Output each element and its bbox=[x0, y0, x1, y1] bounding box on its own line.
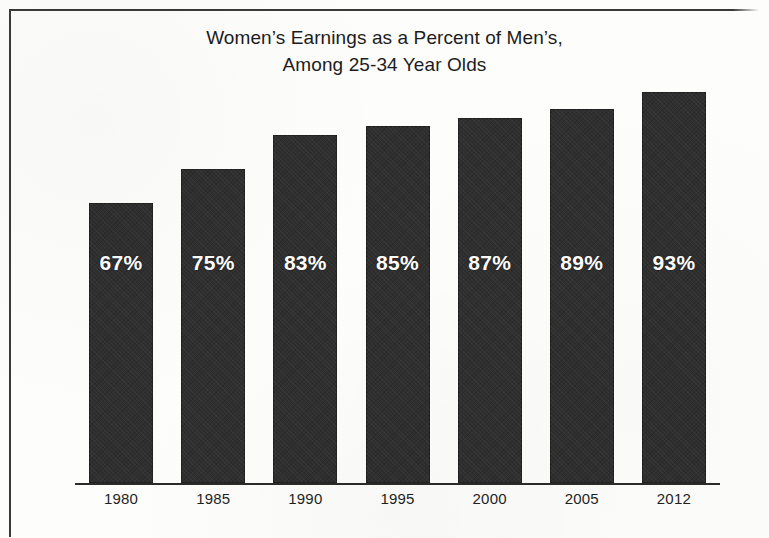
bar-rect-1980 bbox=[89, 203, 153, 483]
chart-title: Women’s Earnings as a Percent of Men’s, … bbox=[0, 24, 769, 78]
chart-title-line-1: Women’s Earnings as a Percent of Men’s, bbox=[0, 24, 769, 51]
bar-rect-1995 bbox=[366, 126, 430, 483]
bar-1980: 67% bbox=[89, 203, 153, 483]
bar-1990: 83% bbox=[273, 135, 337, 483]
bar-2005: 89% bbox=[550, 109, 614, 483]
bar-value-label-1995: 85% bbox=[366, 251, 430, 275]
plot-area: 67%75%83%85%87%89%93% bbox=[75, 80, 720, 485]
scanned-figure-page: Women’s Earnings as a Percent of Men’s, … bbox=[0, 0, 769, 538]
x-axis-tick-labels: 1980198519901995200020052012 bbox=[75, 490, 720, 514]
x-tick-label-1985: 1985 bbox=[167, 490, 259, 507]
x-axis-line bbox=[75, 483, 720, 485]
bar-1995: 85% bbox=[366, 126, 430, 483]
bar-rect-1985 bbox=[181, 169, 245, 483]
bar-1985: 75% bbox=[181, 169, 245, 483]
bar-rect-2012 bbox=[642, 92, 706, 483]
chart-title-line-2: Among 25-34 Year Olds bbox=[0, 51, 769, 78]
x-tick-label-1980: 1980 bbox=[75, 490, 167, 507]
bar-rect-1990 bbox=[273, 135, 337, 483]
bar-value-label-1985: 75% bbox=[181, 251, 245, 275]
x-tick-label-2005: 2005 bbox=[536, 490, 628, 507]
bar-rect-2000 bbox=[458, 118, 522, 483]
bar-value-label-1990: 83% bbox=[273, 251, 337, 275]
x-tick-label-1995: 1995 bbox=[351, 490, 443, 507]
x-tick-label-2012: 2012 bbox=[628, 490, 720, 507]
bar-2012: 93% bbox=[642, 92, 706, 483]
bar-value-label-2000: 87% bbox=[458, 251, 522, 275]
bar-rect-2005 bbox=[550, 109, 614, 483]
x-tick-label-2000: 2000 bbox=[444, 490, 536, 507]
bars-layer: 67%75%83%85%87%89%93% bbox=[75, 80, 720, 483]
bar-value-label-2012: 93% bbox=[642, 251, 706, 275]
bar-value-label-1980: 67% bbox=[89, 251, 153, 275]
x-tick-label-1990: 1990 bbox=[259, 490, 351, 507]
bar-value-label-2005: 89% bbox=[550, 251, 614, 275]
bar-2000: 87% bbox=[458, 118, 522, 483]
